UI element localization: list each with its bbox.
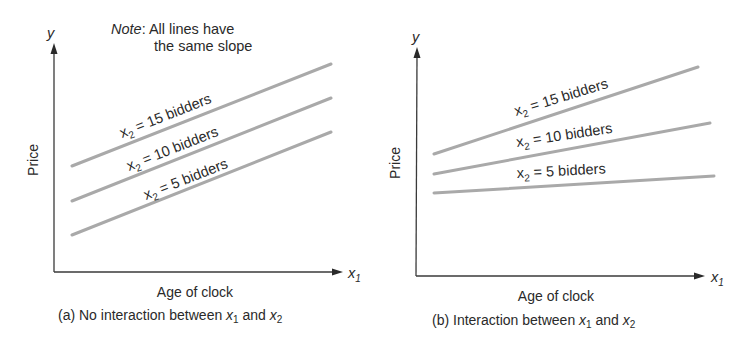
panel-a-y-axis-arrow-icon bbox=[51, 43, 58, 54]
panel-b-x-axis-arrow-icon bbox=[694, 273, 705, 280]
panel-a-y-axis-symbol: y bbox=[46, 25, 55, 41]
panel-b: y x1 Price Age of clock x2 = 15 bidders … bbox=[387, 29, 724, 330]
panel-a-x-axis-symbol: x1 bbox=[347, 265, 361, 284]
panel-b-y-axis bbox=[416, 55, 417, 276]
panel-b-x-axis-symbol: x1 bbox=[710, 269, 724, 288]
panel-a: y x1 Price Age of clock Note: All lines … bbox=[25, 21, 361, 325]
panel-b-y-axis-symbol: y bbox=[411, 29, 420, 45]
panel-a-y-axis-label: Price bbox=[25, 144, 41, 176]
panel-b-label-10-bidders: x2 = 10 bidders bbox=[515, 120, 614, 153]
panel-b-label-15-bidders: x2 = 15 bidders bbox=[512, 75, 610, 122]
panel-b-line-5-bidders bbox=[434, 176, 714, 193]
panel-b-label-5-bidders: x2 = 5 bidders bbox=[516, 160, 606, 184]
figure-canvas: y x1 Price Age of clock Note: All lines … bbox=[0, 0, 753, 353]
panel-a-caption: (a) No interaction between x1 and x2 bbox=[58, 307, 283, 325]
panel-a-x-axis-label: Age of clock bbox=[157, 284, 234, 300]
panel-b-caption: (b) Interaction between x1 and x2 bbox=[432, 312, 636, 330]
panel-a-note-line2: the same slope bbox=[154, 38, 252, 54]
panel-b-y-axis-label: Price bbox=[387, 147, 403, 179]
panel-b-y-axis-arrow-icon bbox=[414, 47, 421, 58]
panel-a-x-axis-arrow-icon bbox=[332, 269, 343, 276]
panel-b-x-axis-label: Age of clock bbox=[518, 288, 595, 304]
panel-a-note-line1: Note: All lines have bbox=[111, 21, 234, 37]
panel-a-line-5-bidders bbox=[72, 132, 331, 235]
